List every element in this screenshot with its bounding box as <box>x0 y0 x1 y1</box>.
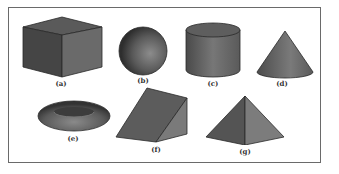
label-a: (a) <box>51 79 71 88</box>
label-c: (c) <box>203 79 223 88</box>
label-b: (b) <box>133 76 153 85</box>
pyramid-shape <box>204 95 286 145</box>
wedge-shape <box>114 87 192 143</box>
label-e: (e) <box>63 134 83 143</box>
cylinder-shape <box>184 21 242 79</box>
cube-shape <box>22 15 104 79</box>
label-d: (d) <box>272 79 292 88</box>
label-g: (g) <box>235 147 255 156</box>
cone-shape <box>255 30 315 80</box>
label-f: (f) <box>146 145 166 154</box>
sphere-shape <box>117 25 169 77</box>
torus-shape <box>36 99 112 133</box>
